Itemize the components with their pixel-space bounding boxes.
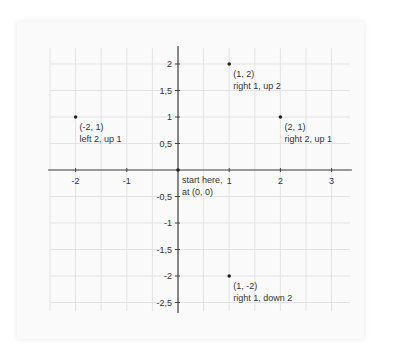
- point-label: (1, -2): [233, 281, 257, 291]
- x-tick-label: -2: [72, 176, 80, 186]
- data-point: [227, 274, 231, 278]
- y-tick-label: 0,5: [159, 139, 172, 149]
- point-description: right 2, up 1: [284, 134, 332, 144]
- point-label: (2, 1): [284, 122, 305, 132]
- y-tick-label: 1: [167, 112, 172, 122]
- y-tick-label: -1: [164, 218, 172, 228]
- point-description: right 1, down 2: [233, 293, 292, 303]
- data-point: [227, 62, 231, 66]
- y-tick-label: 2: [167, 59, 172, 69]
- x-tick-label: -1: [123, 176, 131, 186]
- point-description: left 2, up 1: [80, 134, 122, 144]
- coordinate-plane: -2-112321,510,5-0,5-1-1,5-2-2,5start her…: [0, 0, 396, 355]
- x-tick-label: 3: [329, 176, 334, 186]
- point-description: at (0, 0): [182, 187, 213, 197]
- point-description: right 1, up 2: [233, 81, 281, 91]
- x-tick-label: 1: [227, 176, 232, 186]
- data-point: [74, 115, 78, 119]
- y-tick-label: -2,5: [156, 298, 172, 308]
- point-label: (1, 2): [233, 69, 254, 79]
- y-tick-label: -0,5: [156, 192, 172, 202]
- point-label: start here,: [182, 175, 223, 185]
- y-tick-label: -2: [164, 271, 172, 281]
- point-label: (-2, 1): [80, 122, 104, 132]
- data-point: [279, 115, 283, 119]
- y-tick-label: 1,5: [159, 86, 172, 96]
- x-tick-label: 2: [278, 176, 283, 186]
- y-tick-label: -1,5: [156, 245, 172, 255]
- data-point: [176, 168, 180, 172]
